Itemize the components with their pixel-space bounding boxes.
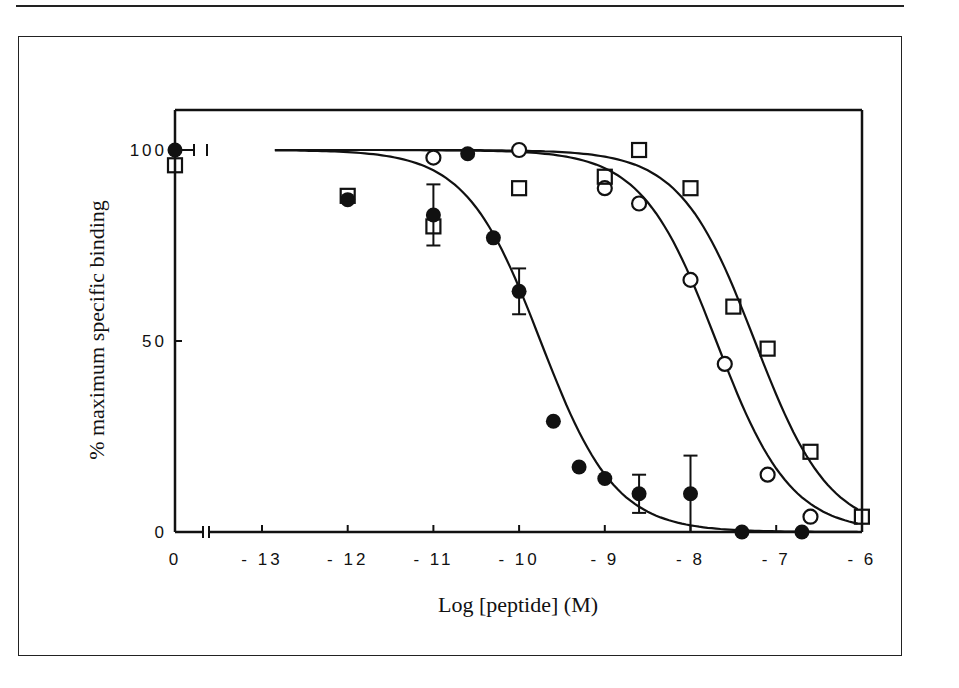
x-tick-label: - 8	[676, 550, 705, 569]
open-circle-point	[632, 196, 646, 210]
x-tick-label: 0	[169, 550, 181, 569]
y-tick-label: 50	[142, 332, 167, 351]
open-circle-point	[718, 357, 732, 371]
open-circle-point	[761, 468, 775, 482]
open-circle-point	[684, 273, 698, 287]
x-tick-label: - 11	[413, 550, 453, 569]
fit-curve-open-squares	[275, 150, 858, 509]
x-tick-label: - 12	[327, 550, 368, 569]
filled-circle-point	[572, 460, 587, 475]
x-tick-label: - 6	[847, 550, 876, 569]
y-tick-label: 100	[130, 141, 167, 160]
open-circle-point	[426, 151, 440, 165]
chart: 0- 13- 12- 11- 10- 9- 8- 7- 6050100Log […	[0, 0, 959, 688]
x-tick-label: - 7	[762, 550, 791, 569]
open-square-point	[632, 143, 646, 157]
filled-circle-point	[597, 471, 612, 486]
x-tick-label: - 9	[590, 550, 619, 569]
open-square-point	[761, 342, 775, 356]
filled-circle-point	[734, 525, 749, 540]
x-tick-label: - 13	[241, 550, 282, 569]
x-axis-title: Log [peptide] (M)	[438, 592, 598, 617]
filled-circle-point	[794, 525, 809, 540]
open-square-point	[512, 181, 526, 195]
open-square-point	[803, 445, 817, 459]
filled-circle-point	[340, 192, 355, 207]
open-square-point	[684, 181, 698, 195]
filled-circle-point	[683, 486, 698, 501]
open-circle-point	[803, 510, 817, 524]
open-circle-point	[512, 143, 526, 157]
filled-circle-point	[168, 143, 183, 158]
filled-circle-point	[632, 486, 647, 501]
filled-circle-point	[460, 146, 475, 161]
y-axis-title: % maximum specific binding	[84, 200, 109, 460]
filled-circle-point	[512, 284, 527, 299]
filled-circle-point	[486, 230, 501, 245]
x-tick-label: - 10	[498, 550, 539, 569]
y-tick-label: 0	[155, 523, 167, 542]
filled-circle-point	[546, 414, 561, 429]
